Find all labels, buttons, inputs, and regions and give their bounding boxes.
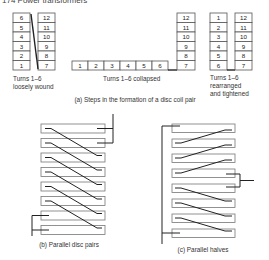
- turn-label: 6: [20, 14, 24, 21]
- turn-label: 4: [126, 62, 130, 69]
- page-header: 174 Power transformers: [2, 0, 87, 5]
- step2-caption: Turns 1–6 collapsed: [103, 75, 161, 83]
- turn-label: 12: [183, 14, 190, 21]
- panel-a-caption: (a) Steps in the formation of a disc coi…: [74, 96, 196, 104]
- turn-label: 6: [158, 62, 162, 69]
- turn-label: 6: [217, 62, 221, 69]
- step3-left-column: 1 2 3 4 5 6: [210, 13, 227, 70]
- panel-b-parallel-disc-pairs: [32, 114, 113, 236]
- turn-label: 10: [240, 33, 247, 40]
- turn-label: 11: [43, 24, 50, 31]
- panel-b-caption: (b) Parallel disc pairs: [39, 241, 99, 249]
- panel-c-parallel-halves: [162, 124, 254, 244]
- turn-label: 11: [240, 24, 247, 31]
- turn-label: 7: [45, 62, 49, 69]
- turn-label: 9: [242, 43, 246, 50]
- turn-label: 8: [184, 52, 188, 59]
- turn-label: 8: [45, 52, 49, 59]
- turn-label: 8: [242, 52, 246, 59]
- step1-caption-line2: loosely wound: [13, 83, 54, 91]
- crossover-conductor: [31, 14, 38, 69]
- step2-collapsed: 1 2 3 4 5 6 12 11 10 9 8 7 Turns 1–6 col…: [72, 13, 195, 83]
- turn-label: 7: [184, 62, 188, 69]
- turn-label: 12: [240, 14, 247, 21]
- turn-label: 1: [20, 62, 24, 69]
- turn-label: 5: [217, 52, 221, 59]
- turn-label: 1: [217, 14, 221, 21]
- turn-label: 9: [45, 43, 49, 50]
- turn-label: 1: [78, 62, 82, 69]
- step1-left-column: 6 5 4 3 2 1: [13, 13, 30, 70]
- turn-label: 7: [242, 62, 246, 69]
- step3-caption-line2: rearranged: [210, 82, 242, 90]
- step2-column: 12 11 10 9 8 7: [177, 13, 195, 70]
- step2-row: 1 2 3 4 5 6: [72, 61, 168, 70]
- step1-right-column: 12 11 10 9 8 7: [38, 13, 55, 70]
- turn-label: 3: [110, 62, 114, 69]
- panel-c-caption: (c) Parallel halves: [178, 246, 229, 254]
- panel-c-lower-crossovers: [175, 188, 232, 231]
- turn-label: 10: [183, 33, 190, 40]
- step1-caption-line1: Turns 1–6: [13, 75, 42, 82]
- panel-c-coils: [172, 124, 235, 238]
- step3-rearranged: 1 2 3 4 5 6 12 11 10 9 8 7 Turns 1–6 rea…: [210, 13, 252, 98]
- panel-c-upper-crossovers: [175, 130, 232, 173]
- transformer-winding-diagram: 174 Power transformers 6 5 4 3 2 1 12 11: [0, 0, 269, 260]
- turn-label: 4: [217, 43, 221, 50]
- panel-b-coils: [41, 124, 105, 235]
- turn-label: 2: [20, 52, 24, 59]
- turn-label: 5: [20, 24, 24, 31]
- turn-label: 10: [43, 33, 50, 40]
- turn-label: 11: [183, 24, 190, 31]
- turn-label: 4: [20, 33, 24, 40]
- turn-label: 2: [217, 24, 221, 31]
- step3-caption-line3: and tightened: [210, 90, 249, 98]
- turn-label: 3: [20, 43, 24, 50]
- turn-label: 12: [43, 14, 50, 21]
- turn-label: 2: [94, 62, 98, 69]
- turn-label: 3: [217, 33, 221, 40]
- turn-label: 5: [142, 62, 146, 69]
- step3-caption-line1: Turns 1–6: [210, 74, 239, 81]
- step1-loosely-wound: 6 5 4 3 2 1 12 11 10 9 8 7 Turns 1–6 loo…: [13, 13, 55, 91]
- step3-right-column: 12 11 10 9 8 7: [235, 13, 252, 70]
- turn-label: 9: [184, 43, 188, 50]
